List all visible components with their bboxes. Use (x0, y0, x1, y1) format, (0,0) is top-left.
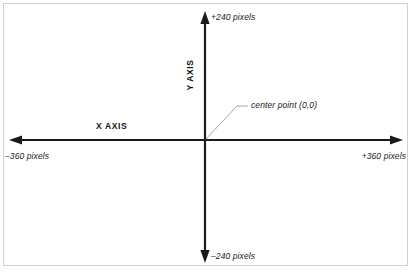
y-axis-min-label: –240 pixels (211, 251, 255, 261)
coordinate-diagram: +240 pixels –240 pixels –360 pixels +360… (0, 0, 418, 275)
axes-graphic (0, 0, 418, 275)
x-axis-min-label: –360 pixels (5, 151, 49, 161)
x-axis-max-label: +360 pixels (362, 151, 406, 161)
x-axis-left-arrowhead (9, 135, 22, 144)
y-axis-max-label: +240 pixels (211, 12, 255, 22)
y-axis-top-arrowhead (200, 11, 209, 24)
y-axis-title: Y AXIS (185, 59, 195, 90)
center-point-leader-line (206, 106, 249, 140)
x-axis-title: X AXIS (96, 121, 127, 131)
y-axis-bottom-arrowhead (200, 250, 209, 263)
center-point-callout-label: center point (0,0) (251, 100, 317, 110)
x-axis-right-arrowhead (390, 135, 403, 144)
